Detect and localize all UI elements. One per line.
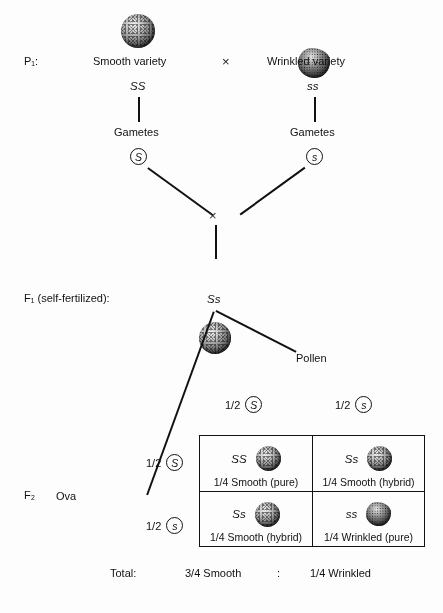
row-header-fraction-0: 1/2 <box>146 457 161 469</box>
parent-left-genotype: SS <box>130 80 145 92</box>
pollen-label: Pollen <box>296 352 327 364</box>
smooth-seed-icon-cell-2 <box>255 502 280 527</box>
punnett-row-header-1: 1/2 s <box>146 517 183 534</box>
gamete-circle-right: s <box>306 148 323 165</box>
total-separator: : <box>277 567 280 579</box>
stage-label-f2: F₂ <box>24 489 35 501</box>
punnett-cell-3-genotype: ss <box>346 508 358 520</box>
punnett-cell-1-label: 1/4 Smooth (hybrid) <box>317 476 420 488</box>
punnett-col-header-0: 1/2 S <box>225 396 262 413</box>
col-header-fraction-1: 1/2 <box>335 399 350 411</box>
ova-label: Ova <box>56 490 76 502</box>
gamete-circle-left: S <box>130 148 147 165</box>
wrinkled-seed-icon-cell-3 <box>366 502 391 526</box>
punnett-cell-2-genotype: Ss <box>232 508 245 520</box>
connector-left-diagonal <box>148 167 214 215</box>
punnett-cell-3-label: 1/4 Wrinkled (pure) <box>317 531 420 543</box>
f1-cross-symbol: × <box>209 208 217 223</box>
connector-right-diagonal <box>240 167 306 215</box>
row-header-allele-1: s <box>166 517 183 534</box>
col-header-fraction-0: 1/2 <box>225 399 240 411</box>
parent-right-genotype: ss <box>307 80 319 92</box>
punnett-row-header-0: 1/2 S <box>146 454 183 471</box>
smooth-seed-icon-cell-1 <box>367 446 392 471</box>
row-header-fraction-1: 1/2 <box>146 520 161 532</box>
parent-left-name: Smooth variety <box>93 55 166 67</box>
punnett-cell-0-genotype: SS <box>231 453 246 465</box>
col-header-allele-0: S <box>245 396 262 413</box>
p1-cross-symbol: × <box>222 54 230 69</box>
total-wrinkled: 1/4 Wrinkled <box>310 567 371 579</box>
punnett-cell-2-label: 1/4 Smooth (hybrid) <box>204 531 308 543</box>
punnett-cell-1-genotype: Ss <box>345 453 358 465</box>
stage-label-p1: P₁: <box>24 55 38 67</box>
parent-right-name: Wrinkled variety <box>267 55 345 67</box>
punnett-cell-0: SS 1/4 Smooth (pure) <box>200 436 312 491</box>
punnett-square: SS 1/4 Smooth (pure) Ss 1/4 Smooth (hybr… <box>199 435 425 547</box>
connector-to-f1 <box>215 225 217 259</box>
punnett-cell-2: Ss 1/4 Smooth (hybrid) <box>200 491 312 546</box>
row-header-allele-0: S <box>166 454 183 471</box>
gametes-label-left: Gametes <box>114 126 159 138</box>
total-smooth: 3/4 Smooth <box>185 567 241 579</box>
f1-genotype: Ss <box>207 293 220 305</box>
smooth-seed-icon-cell-0 <box>256 446 281 471</box>
total-label: Total: <box>110 567 136 579</box>
gametes-label-right: Gametes <box>290 126 335 138</box>
col-header-allele-1: s <box>355 396 372 413</box>
monohybrid-cross-diagram: P₁: Smooth variety SS × Wrinkled variety… <box>0 0 443 613</box>
punnett-col-header-1: 1/2 s <box>335 396 372 413</box>
punnett-cell-1: Ss 1/4 Smooth (hybrid) <box>312 436 424 491</box>
stage-label-f1: F₁ (self-fertilized): <box>24 292 110 304</box>
punnett-cell-3: ss 1/4 Wrinkled (pure) <box>312 491 424 546</box>
connector-left-parent <box>138 97 140 122</box>
smooth-seed-icon-p1 <box>121 14 155 48</box>
connector-right-parent <box>314 97 316 122</box>
punnett-cell-0-label: 1/4 Smooth (pure) <box>204 476 308 488</box>
